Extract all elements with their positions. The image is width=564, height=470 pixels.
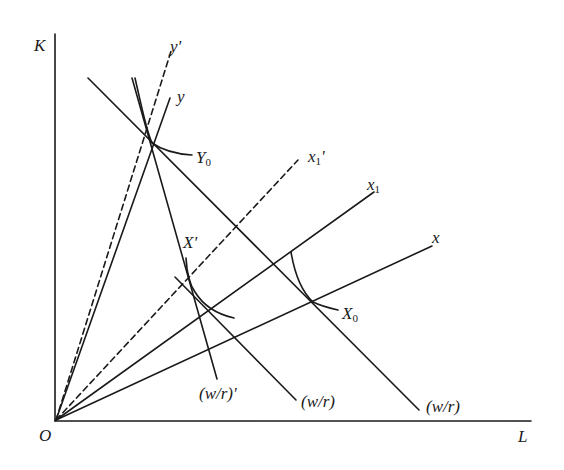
- ray-y: [56, 98, 170, 420]
- isoquant-label-Y0: Y0: [196, 149, 211, 168]
- ray-x1-prime: [56, 160, 298, 420]
- isoquant-label-X0: X0: [342, 305, 358, 324]
- l-axis-label: L: [518, 428, 527, 445]
- price-line-wr-middle: [175, 277, 296, 400]
- ray-label-y: y: [177, 88, 185, 105]
- ray-x: [56, 246, 432, 420]
- ray-label-x1-prime-suffix: ': [321, 147, 325, 166]
- ray-label-y-prime: y': [170, 38, 181, 55]
- ray-label-x1-sub: 1: [375, 183, 381, 195]
- ray-label-x: x: [432, 229, 440, 246]
- ray-label-x1-main: x: [367, 175, 375, 194]
- isoquant-label-X0-sub: 0: [352, 312, 358, 324]
- isoquant-label-X-prime: X': [183, 234, 197, 251]
- ray-label-x1: x1: [367, 176, 380, 195]
- ray-label-x1-prime-main: x: [308, 147, 316, 166]
- price-label-wr-outer: (w/r): [426, 398, 460, 415]
- price-label-wr-prime: (w/r)': [199, 385, 237, 402]
- isoquant-X0: [291, 252, 338, 310]
- price-line-wr-prime: [132, 78, 217, 379]
- price-line-wr-outer: [88, 78, 419, 410]
- isoquant-label-Y0-sub: 0: [205, 156, 211, 168]
- k-axis-label: K: [34, 37, 45, 54]
- origin-label: O: [39, 427, 51, 444]
- price-label-wr-middle: (w/r): [301, 393, 335, 410]
- factor-intensity-diagram: [0, 0, 564, 470]
- ray-label-x1-prime: x1': [308, 148, 325, 167]
- isoquant-label-X0-main: X: [342, 304, 352, 323]
